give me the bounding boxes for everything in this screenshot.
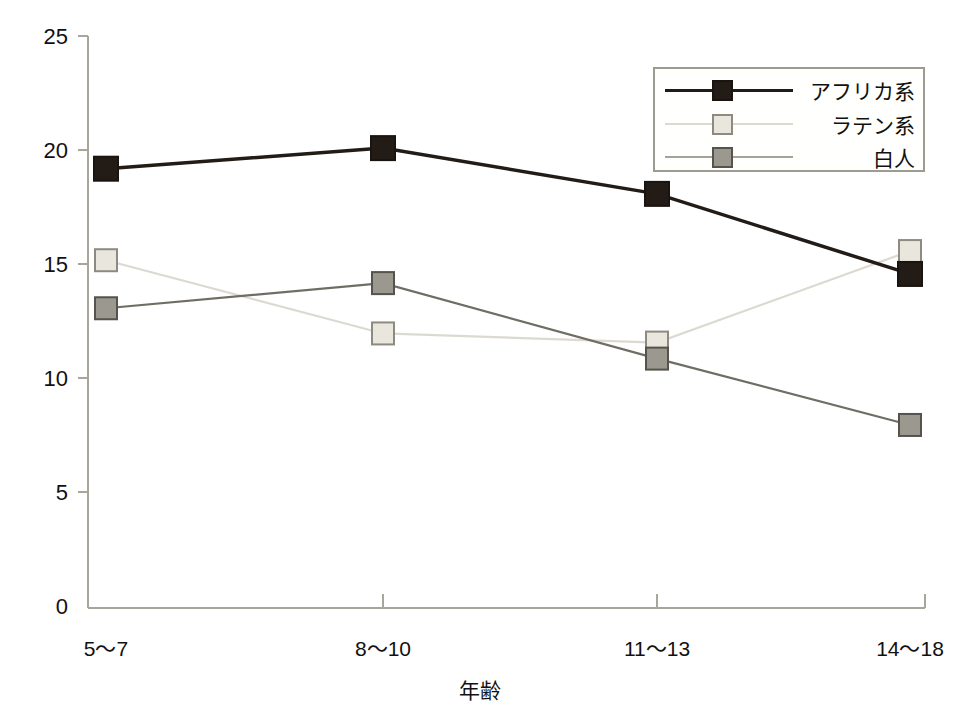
data-point-marker [95, 249, 117, 271]
data-point-marker [899, 414, 921, 436]
legend-marker-white [712, 147, 733, 168]
data-point-marker [95, 297, 117, 319]
data-point-marker [372, 322, 394, 344]
legend-sample-latino [655, 107, 801, 141]
data-point-marker [898, 262, 922, 286]
data-point-marker [371, 136, 395, 160]
legend-sample-white [655, 140, 801, 174]
series-layer [94, 136, 922, 436]
legend-marker-african [712, 80, 733, 101]
data-point-marker [646, 348, 668, 370]
series-line-2 [106, 283, 910, 425]
legend-marker-latino [712, 114, 733, 135]
legend-label-latino: ラテン系 [801, 109, 927, 139]
legend: アフリカ系 ラテン系 白人 [653, 67, 925, 172]
chart-container: ADHD Rating Scale-IVの合計スコア 25 20 15 10 5… [0, 0, 960, 724]
legend-label-african: アフリカ系 [801, 75, 927, 105]
data-point-marker [94, 157, 118, 181]
legend-row-latino[interactable]: ラテン系 [655, 106, 927, 141]
legend-label-white: 白人 [801, 142, 927, 172]
legend-row-white[interactable]: 白人 [655, 139, 927, 174]
data-point-marker [372, 272, 394, 294]
data-point-marker [645, 182, 669, 206]
legend-row-african[interactable]: アフリカ系 [655, 72, 927, 107]
data-point-marker [899, 240, 921, 262]
legend-sample-african [655, 73, 801, 107]
